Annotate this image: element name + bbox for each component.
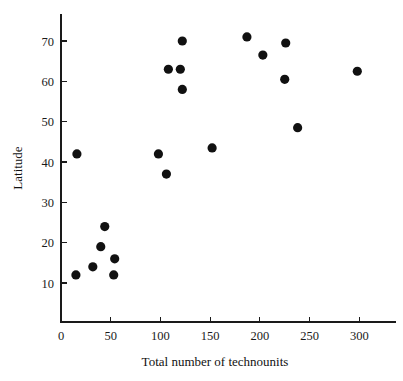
data-point <box>154 149 163 158</box>
data-point <box>164 65 173 74</box>
x-axis-tick-labels: 050100150200250300 <box>58 329 369 343</box>
y-tick-label: 40 <box>42 156 55 170</box>
data-point <box>353 67 362 76</box>
x-tick-label: 300 <box>350 329 369 343</box>
y-tick-label: 30 <box>42 196 55 210</box>
data-point <box>96 242 105 251</box>
y-tick-label: 70 <box>42 35 55 49</box>
x-tick-label: 50 <box>104 329 117 343</box>
data-point <box>280 75 289 84</box>
scatter-plot-figure: 050100150200250300 10203040506070 Total … <box>0 0 403 381</box>
x-tick-label: 250 <box>300 329 319 343</box>
x-axis-title: Total number of technounits <box>142 354 289 369</box>
data-point <box>258 51 267 60</box>
y-axis-tick-labels: 10203040506070 <box>42 35 55 291</box>
data-point <box>88 262 97 271</box>
data-point <box>72 149 81 158</box>
data-point <box>109 270 118 279</box>
x-tick-label: 150 <box>201 329 220 343</box>
data-point <box>208 143 217 152</box>
y-tick-label: 50 <box>42 115 55 129</box>
x-tick-label: 200 <box>250 329 269 343</box>
data-point <box>293 123 302 132</box>
y-tick-label: 10 <box>42 277 55 291</box>
data-point-group <box>71 32 362 279</box>
y-axis-ticks <box>61 41 67 283</box>
data-point <box>162 170 171 179</box>
data-point <box>281 38 290 47</box>
data-point <box>110 254 119 263</box>
data-point <box>242 32 251 41</box>
y-tick-label: 20 <box>42 236 55 250</box>
x-tick-label: 0 <box>58 329 64 343</box>
data-point <box>71 270 80 279</box>
y-tick-label: 60 <box>42 75 55 89</box>
data-point <box>178 85 187 94</box>
y-axis-title: Latitude <box>10 146 25 190</box>
data-point <box>176 65 185 74</box>
data-point <box>178 36 187 45</box>
data-point <box>100 222 109 231</box>
plot-canvas: 050100150200250300 10203040506070 Total … <box>0 0 403 381</box>
x-tick-label: 100 <box>151 329 170 343</box>
